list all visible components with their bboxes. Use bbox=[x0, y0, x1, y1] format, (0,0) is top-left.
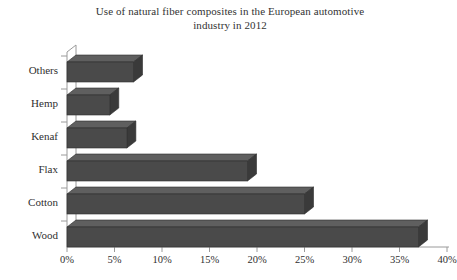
x-axis-tick-label: 20% bbox=[247, 254, 266, 265]
x-axis-tick-label: 10% bbox=[152, 254, 171, 265]
x-axis-tick-label: 5% bbox=[108, 254, 122, 265]
x-axis-tick-label: 35% bbox=[390, 254, 409, 265]
x-axis-tick-label: 40% bbox=[437, 254, 456, 265]
x-axis-tick-label: 25% bbox=[295, 254, 314, 265]
x-axis-tick-label: 0% bbox=[60, 254, 74, 265]
x-axis-tick-label: 30% bbox=[342, 254, 361, 265]
x-axis-tick-label: 15% bbox=[200, 254, 219, 265]
